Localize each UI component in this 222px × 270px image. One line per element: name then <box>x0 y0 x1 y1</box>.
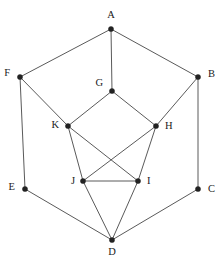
graph-canvas: ABCDEFGHIJK <box>0 0 222 270</box>
graph-figure: ABCDEFGHIJK <box>0 0 222 270</box>
graph-edge-f-e <box>20 77 25 189</box>
graph-node-g[interactable] <box>109 88 114 93</box>
graph-edge-h-i <box>138 126 156 181</box>
graph-edge-g-h <box>112 91 156 126</box>
graph-node-e[interactable] <box>22 186 27 191</box>
graph-edge-b-h <box>156 77 198 126</box>
graph-edge-k-j <box>68 126 83 181</box>
graph-edge-a-f <box>20 29 111 77</box>
graph-edge-h-j <box>83 126 156 181</box>
graph-node-a[interactable] <box>108 26 113 31</box>
graph-edge-g-k <box>68 91 112 126</box>
graph-edge-a-b <box>111 29 198 77</box>
graph-node-label-e: E <box>9 181 15 192</box>
graph-node-label-k: K <box>51 119 59 130</box>
graph-edge-f-k <box>20 77 68 126</box>
edge-layer <box>20 29 198 240</box>
graph-node-i[interactable] <box>135 178 140 183</box>
graph-edge-a-g <box>111 29 112 91</box>
graph-node-label-f: F <box>4 67 10 78</box>
graph-node-d[interactable] <box>109 237 114 242</box>
graph-edge-i-d <box>112 181 138 240</box>
graph-node-label-b: B <box>208 68 215 79</box>
node-layer <box>17 26 200 242</box>
graph-node-b[interactable] <box>195 74 200 79</box>
label-layer: ABCDEFGHIJK <box>4 9 215 257</box>
graph-node-label-h: H <box>165 120 173 131</box>
graph-node-label-i: I <box>147 175 151 186</box>
graph-node-label-a: A <box>107 9 115 20</box>
graph-node-j[interactable] <box>80 178 85 183</box>
graph-edge-c-d <box>112 189 198 240</box>
graph-node-label-d: D <box>108 246 116 257</box>
graph-node-c[interactable] <box>195 186 200 191</box>
graph-node-f[interactable] <box>17 74 22 79</box>
graph-node-label-c: C <box>208 183 215 194</box>
graph-node-k[interactable] <box>65 123 70 128</box>
graph-edge-k-i <box>68 126 138 181</box>
graph-node-label-j: J <box>71 175 75 186</box>
graph-node-label-g: G <box>95 77 103 88</box>
graph-node-h[interactable] <box>153 123 158 128</box>
